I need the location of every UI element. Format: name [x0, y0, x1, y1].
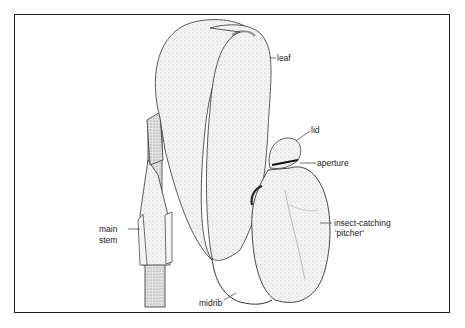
label-midrib: midrib — [199, 298, 222, 308]
label-pitcher-line1: insect-catching — [334, 218, 391, 228]
label-pitcher-line2: 'pitcher' — [335, 228, 364, 238]
pitcher-plant-illustration — [0, 0, 465, 328]
label-stem-line1: main — [99, 224, 117, 234]
label-stem-line2: stem — [99, 235, 117, 245]
label-lid: lid — [311, 125, 320, 135]
leaf-blade — [155, 20, 272, 305]
label-aperture: aperture — [317, 158, 349, 168]
label-leaf: leaf — [277, 53, 291, 63]
